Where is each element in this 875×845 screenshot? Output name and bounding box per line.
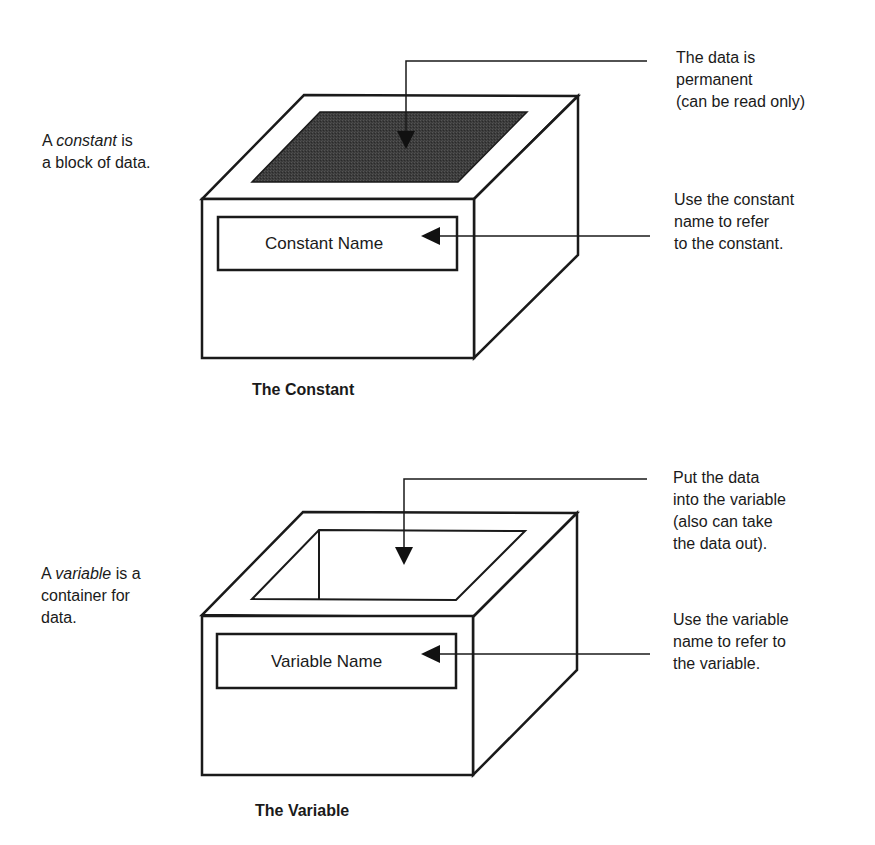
variable-definition-line2: container for: [41, 587, 130, 604]
constant-note-top-line: The data is: [676, 49, 755, 66]
variable-definition-suffix: is a: [111, 565, 140, 582]
constant-note-top-line: (can be read only): [676, 93, 805, 110]
diagram-canvas: [0, 0, 875, 845]
variable-note-label-line: name to refer to: [673, 633, 786, 650]
constant-definition-suffix: is: [117, 132, 133, 149]
constant-definition-line2: a block of data.: [42, 154, 151, 171]
variable-definition: A variable is acontainer fordata.: [41, 563, 141, 629]
variable-definition-prefix: A: [41, 565, 55, 582]
constant-caption: The Constant: [252, 381, 354, 399]
constant-definition: A constant isa block of data.: [42, 130, 151, 174]
constant-note-label-line: name to refer: [674, 213, 769, 230]
variable-term: variable: [55, 565, 111, 582]
variable-note-top-line: into the variable: [673, 491, 786, 508]
constant-box: [202, 95, 578, 358]
constant-note-top-line: permanent: [676, 71, 753, 88]
variable-note-top: Put the datainto the variable(also can t…: [673, 467, 786, 555]
constant-term: constant: [56, 132, 116, 149]
constant-note-label-line: Use the constant: [674, 191, 794, 208]
variable-note-top-line: Put the data: [673, 469, 759, 486]
variable-name-label: Variable Name: [271, 652, 382, 672]
variable-note-label-line: the variable.: [673, 655, 760, 672]
constant-note-top: The data ispermanent(can be read only): [676, 47, 805, 113]
variable-caption: The Variable: [255, 802, 349, 820]
constant-name-label: Constant Name: [265, 234, 383, 254]
constant-note-label: Use the constantname to referto the cons…: [674, 189, 794, 255]
constant-note-label-line: to the constant.: [674, 235, 783, 252]
variable-box: [202, 512, 577, 775]
constant-definition-prefix: A: [42, 132, 56, 149]
variable-note-top-line: the data out).: [673, 535, 767, 552]
variable-definition-line3: data.: [41, 609, 77, 626]
variable-note-top-line: (also can take: [673, 513, 773, 530]
variable-note-label: Use the variablename to refer tothe vari…: [673, 609, 789, 675]
variable-note-label-line: Use the variable: [673, 611, 789, 628]
